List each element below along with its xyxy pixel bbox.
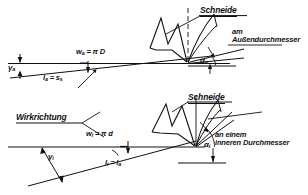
schneide-a-leader bbox=[166, 16, 200, 34]
l-inner-equation: = l bbox=[108, 158, 118, 167]
caption-outer-diameter: am Außendurchmesser bbox=[232, 28, 300, 45]
gamma-inner-label: γi bbox=[48, 153, 54, 162]
l-outer-equation-subscript: s bbox=[60, 76, 63, 82]
gamma-a-arrowhead-lower bbox=[18, 71, 23, 77]
schneide-label-inner: Schneide bbox=[188, 93, 225, 104]
caption-outer-line2: Außendurchmesser bbox=[232, 36, 300, 44]
w-inner-label: wi = π d bbox=[86, 130, 113, 139]
outer-wedge-flank bbox=[150, 48, 187, 62]
l-outer-label: la = ss bbox=[43, 74, 63, 83]
inner-caption-leader bbox=[208, 112, 262, 119]
alpha-i-drop-arrowhead bbox=[211, 156, 215, 163]
outer-rake-face bbox=[188, 14, 214, 62]
alpha-outer-label: αa bbox=[200, 57, 208, 66]
inner-wedge-left bbox=[152, 104, 195, 146]
l-inner-label: li = la bbox=[105, 159, 121, 168]
l-inner-equation-subscript: a bbox=[118, 161, 121, 167]
outer-effective-direction-line bbox=[10, 56, 212, 78]
w-outer-label: wa = π D bbox=[76, 48, 105, 57]
technical-diagram: Schneide Schneide am Außendurchmesser an… bbox=[0, 0, 308, 195]
alpha-inner-subscript: i bbox=[209, 143, 210, 149]
w-outer-equation: = π D bbox=[84, 47, 105, 56]
caption-inner-line2: inneren Durchmesser bbox=[215, 139, 289, 147]
gamma-a-arrowhead-upper bbox=[18, 57, 23, 63]
alpha-inner-label: αi bbox=[204, 141, 210, 150]
l-outer-equation: = s bbox=[48, 73, 60, 82]
wirkrichtung-leader bbox=[82, 112, 100, 123]
outer-wedge-left bbox=[150, 18, 187, 62]
gamma-outer-label: γa bbox=[8, 64, 15, 73]
gamma-outer-subscript: a bbox=[12, 66, 15, 72]
alpha-outer-subscript: a bbox=[205, 59, 208, 65]
caption-inner-diameter: an einem inneren Durchmesser bbox=[215, 131, 289, 148]
gamma-i-arrowhead-bottom bbox=[58, 176, 63, 183]
gamma-inner-subscript: i bbox=[52, 155, 53, 161]
inner-angle-tick bbox=[112, 150, 118, 156]
feed-i-arrowhead bbox=[126, 148, 130, 154]
wirkrichtung-label: Wirkrichtung bbox=[16, 113, 67, 123]
gamma-i-arrowhead-top bbox=[40, 147, 45, 154]
w-inner-equation: = π d bbox=[93, 129, 113, 138]
inner-wedge-flank bbox=[152, 132, 195, 146]
schneide-label-outer: Schneide bbox=[200, 6, 237, 17]
feed-a-leader bbox=[78, 70, 96, 88]
